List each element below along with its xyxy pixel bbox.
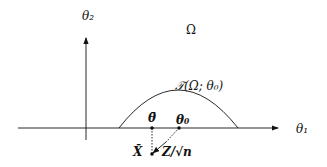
z-scaled-label: Z/√n [162,146,192,158]
x-axis-label: θ₁ [296,123,308,135]
theta-bar-label: θ̄ [148,112,156,124]
y-axis-label: θ₂ [82,10,94,22]
x-bar-point [150,152,154,156]
tangent-cone-label: 𝒯(Ω; θ₀) [175,80,223,92]
region-label: Ω [186,24,196,36]
theta-bar-point [150,126,154,130]
diagram-canvas: θ₂ Ω 𝒯(Ω; θ₀) θ̄ θ₀ θ₁ X̄ Z/√n [0,0,327,167]
x-bar-label: X̄ [133,146,142,158]
diagram-graphics [0,0,327,167]
theta0-label: θ₀ [176,114,189,126]
dotted-line-theta0 [166,128,179,142]
